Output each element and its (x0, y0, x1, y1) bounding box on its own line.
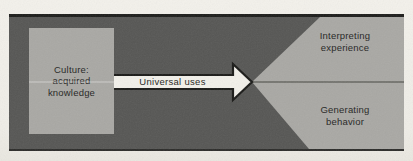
outcome-bottom-line-1: Generating (290, 104, 400, 116)
culture-box-line-3: knowledge (48, 87, 95, 99)
culture-box-line-2: acquired (52, 75, 90, 87)
outcome-top-line-2: experience (290, 42, 400, 54)
figure-canvas: Culture: acquired knowledge Universal us… (0, 0, 413, 161)
outcome-bottom-line-2: behavior (290, 116, 400, 128)
outcome-top-line-1: Interpreting (290, 30, 400, 42)
culture-box-line-1: Culture: (54, 64, 89, 76)
arrow-label: Universal uses (112, 74, 233, 90)
outcome-interpreting-experience: Interpreting experience (290, 30, 400, 53)
diagram-panel: Culture: acquired knowledge Universal us… (9, 14, 404, 151)
outcome-generating-behavior: Generating behavior (290, 104, 400, 127)
culture-source-box: Culture: acquired knowledge (29, 28, 114, 134)
